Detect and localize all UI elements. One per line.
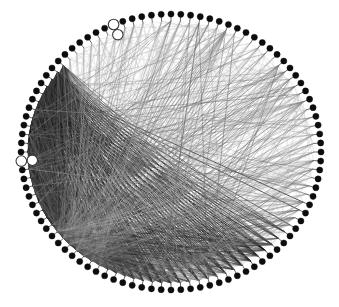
graph-node[interactable] bbox=[23, 113, 29, 119]
graph-node[interactable] bbox=[62, 51, 68, 57]
graph-node[interactable] bbox=[33, 210, 39, 216]
graph-node[interactable] bbox=[33, 88, 39, 94]
graph-node[interactable] bbox=[225, 276, 231, 282]
graph-node[interactable] bbox=[293, 226, 299, 232]
graph-node[interactable] bbox=[18, 149, 24, 155]
graph-node[interactable] bbox=[317, 167, 323, 173]
circular-network-graph bbox=[0, 0, 339, 307]
graph-node[interactable] bbox=[158, 287, 164, 293]
graph-node[interactable] bbox=[139, 14, 145, 20]
graph-node[interactable] bbox=[102, 25, 108, 31]
graph-node[interactable] bbox=[259, 39, 265, 45]
graph-node[interactable] bbox=[69, 45, 75, 51]
graph-node[interactable] bbox=[43, 226, 49, 232]
graph-node[interactable] bbox=[287, 233, 293, 239]
graph-node[interactable] bbox=[287, 65, 293, 71]
graph-node[interactable] bbox=[111, 276, 117, 282]
graph-node-hollow[interactable] bbox=[108, 19, 119, 30]
graph-node[interactable] bbox=[43, 72, 49, 78]
graph-node[interactable] bbox=[197, 14, 203, 20]
graph-node[interactable] bbox=[77, 39, 83, 45]
graph-node-hollow[interactable] bbox=[16, 156, 27, 167]
graph-node[interactable] bbox=[313, 185, 319, 191]
graph-node[interactable] bbox=[158, 11, 164, 17]
graph-node[interactable] bbox=[274, 51, 280, 57]
graph-node[interactable] bbox=[19, 131, 25, 137]
graph-node[interactable] bbox=[21, 176, 27, 182]
graph-node[interactable] bbox=[120, 18, 126, 24]
graph-node[interactable] bbox=[197, 284, 203, 290]
graph-node[interactable] bbox=[207, 16, 213, 22]
graph-node-hollow-inner[interactable] bbox=[113, 29, 123, 39]
graph-node[interactable] bbox=[313, 113, 319, 119]
graph-node[interactable] bbox=[234, 273, 240, 279]
graph-node[interactable] bbox=[168, 287, 174, 293]
graph-node[interactable] bbox=[93, 268, 99, 274]
graph-node[interactable] bbox=[216, 18, 222, 24]
graph-node-hollow-inner[interactable] bbox=[27, 155, 37, 165]
graph-node[interactable] bbox=[49, 65, 55, 71]
graph-node[interactable] bbox=[318, 149, 324, 155]
graph-node[interactable] bbox=[315, 176, 321, 182]
graph-node[interactable] bbox=[38, 218, 44, 224]
graph-node[interactable] bbox=[243, 268, 249, 274]
graph-node[interactable] bbox=[21, 122, 27, 128]
graph-node[interactable] bbox=[281, 240, 287, 246]
graph-node[interactable] bbox=[187, 286, 193, 292]
graph-node[interactable] bbox=[251, 264, 257, 270]
graph-node[interactable] bbox=[18, 140, 24, 146]
graph-node[interactable] bbox=[310, 105, 316, 111]
graph-node[interactable] bbox=[318, 140, 324, 146]
graph-node[interactable] bbox=[243, 29, 249, 35]
graph-node[interactable] bbox=[29, 96, 35, 102]
graph-node[interactable] bbox=[267, 45, 273, 51]
graph-node[interactable] bbox=[317, 131, 323, 137]
graph-node[interactable] bbox=[281, 58, 287, 64]
graph-node[interactable] bbox=[225, 21, 231, 27]
graph-node[interactable] bbox=[69, 253, 75, 259]
graph-node[interactable] bbox=[85, 34, 91, 40]
graph-node[interactable] bbox=[315, 122, 321, 128]
graph-node[interactable] bbox=[298, 80, 304, 86]
graph-node[interactable] bbox=[23, 185, 29, 191]
graph-node[interactable] bbox=[26, 105, 32, 111]
graph-node[interactable] bbox=[298, 218, 304, 224]
graph-node[interactable] bbox=[49, 233, 55, 239]
graph-node[interactable] bbox=[259, 258, 265, 264]
graph-node[interactable] bbox=[139, 284, 145, 290]
figure-root bbox=[0, 0, 339, 307]
graph-node[interactable] bbox=[234, 25, 240, 31]
graph-node[interactable] bbox=[129, 16, 135, 22]
graph-node[interactable] bbox=[26, 193, 32, 199]
graph-node[interactable] bbox=[251, 34, 257, 40]
graph-node[interactable] bbox=[38, 80, 44, 86]
graph-node[interactable] bbox=[85, 264, 91, 270]
graph-node[interactable] bbox=[267, 253, 273, 259]
graph-node[interactable] bbox=[129, 282, 135, 288]
graph-node[interactable] bbox=[274, 246, 280, 252]
graph-node[interactable] bbox=[77, 258, 83, 264]
graph-node[interactable] bbox=[293, 72, 299, 78]
graph-node[interactable] bbox=[148, 286, 154, 292]
graph-node[interactable] bbox=[306, 96, 312, 102]
graph-node[interactable] bbox=[302, 210, 308, 216]
graph-node[interactable] bbox=[93, 29, 99, 35]
graph-node[interactable] bbox=[168, 11, 174, 17]
graph-node[interactable] bbox=[178, 287, 184, 293]
graph-node[interactable] bbox=[178, 11, 184, 17]
graph-node[interactable] bbox=[187, 12, 193, 18]
graph-node[interactable] bbox=[55, 58, 61, 64]
graph-node[interactable] bbox=[216, 280, 222, 286]
graph-node[interactable] bbox=[302, 88, 308, 94]
graph-node[interactable] bbox=[310, 193, 316, 199]
graph-node[interactable] bbox=[148, 12, 154, 18]
graph-node[interactable] bbox=[102, 273, 108, 279]
graph-node[interactable] bbox=[55, 240, 61, 246]
graph-node[interactable] bbox=[19, 167, 25, 173]
graph-node[interactable] bbox=[62, 246, 68, 252]
graph-node[interactable] bbox=[318, 158, 324, 164]
graph-node[interactable] bbox=[207, 282, 213, 288]
graph-node[interactable] bbox=[306, 202, 312, 208]
graph-node[interactable] bbox=[29, 202, 35, 208]
graph-node[interactable] bbox=[120, 280, 126, 286]
